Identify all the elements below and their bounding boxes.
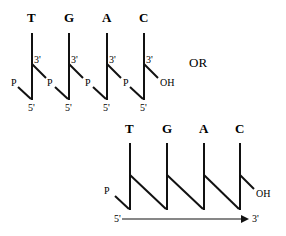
three-prime-label: 3' [71, 54, 78, 65]
five-prime-label: 5' [65, 102, 72, 113]
phosphate-label: P [11, 77, 17, 88]
phosphate-label: P [123, 77, 129, 88]
base-label: A [199, 121, 209, 136]
three-prime-label: 3' [34, 54, 41, 65]
five-prime-label: 5' [140, 102, 147, 113]
phosphate-label: P [85, 77, 91, 88]
top-strand-lines [18, 33, 158, 100]
five-prime-label: 5' [28, 102, 35, 113]
hydroxyl-label: OH [160, 77, 174, 88]
top-strand-labels: T G A C 3' 3' 3' 3' P P P P 5' 5' 5' 5' … [11, 10, 174, 113]
five-prime-label: 5' [114, 213, 121, 224]
base-label: G [64, 10, 74, 25]
three-prime-label: 3' [146, 54, 153, 65]
base-label: C [235, 121, 244, 136]
three-prime-label: 3' [109, 54, 116, 65]
base-label: A [102, 10, 112, 25]
dna-strand-diagrams: T G A C 3' 3' 3' 3' P P P P 5' 5' 5' 5' … [0, 0, 286, 236]
hydroxyl-label: OH [256, 188, 270, 199]
base-label: T [27, 10, 36, 25]
phosphate-label: P [104, 185, 110, 196]
base-label: T [125, 121, 134, 136]
base-label: C [139, 10, 148, 25]
three-prime-label: 3' [252, 213, 259, 224]
bottom-strand-lines [115, 143, 254, 210]
base-label: G [162, 121, 172, 136]
or-separator: OR [189, 55, 207, 70]
phosphate-label: P [47, 77, 53, 88]
five-prime-label: 5' [103, 102, 110, 113]
direction-arrow [122, 215, 249, 223]
arrowhead-icon [241, 215, 249, 223]
